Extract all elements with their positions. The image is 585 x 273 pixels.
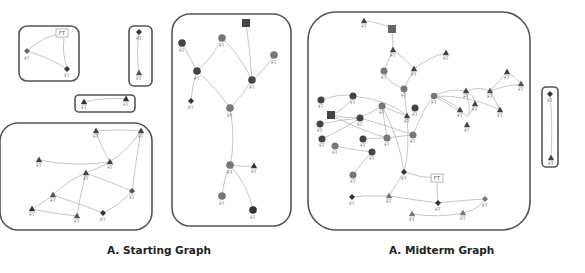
svg-text:FT: FT [390, 53, 396, 58]
svg-text:FT: FT [381, 75, 387, 80]
svg-text:FT: FT [401, 93, 407, 98]
svg-text:FT: FT [431, 100, 437, 105]
svg-text:FT: FT [349, 201, 355, 206]
svg-text:FT: FT [412, 112, 418, 117]
svg-text:FT: FT [227, 113, 233, 118]
svg-text:FT: FT [136, 36, 142, 41]
svg-text:FT: FT [410, 139, 416, 144]
svg-text:FT: FT [219, 43, 225, 48]
svg-text:FT: FT [24, 56, 30, 61]
svg-text:FT: FT [386, 199, 392, 204]
svg-text:FT: FT [401, 176, 407, 181]
svg-text:FT: FT [93, 134, 99, 139]
svg-text:FT: FT [404, 119, 410, 124]
svg-text:FT: FT [547, 98, 553, 103]
svg-text:FT: FT [74, 219, 80, 224]
starting-cluster-4: FT FT FT FT FT FT FT FT FT FT [0, 123, 152, 230]
caption-starting-graph: A. Starting Graph [107, 244, 211, 256]
svg-text:FT: FT [100, 217, 106, 222]
svg-text:FT: FT [81, 105, 87, 110]
svg-text:FT: FT [50, 198, 56, 203]
svg-text:FT: FT [136, 76, 142, 81]
svg-text:FT: FT [251, 169, 257, 174]
svg-text:FT: FT [435, 207, 441, 212]
svg-text:FT: FT [227, 170, 233, 175]
svg-text:FT: FT [36, 163, 42, 168]
svg-text:FT: FT [504, 75, 510, 80]
starting-cluster-2: FT FT [129, 26, 152, 86]
svg-text:FT: FT [463, 94, 469, 99]
svg-text:FT: FT [464, 128, 470, 133]
svg-text:FT: FT [384, 142, 390, 147]
svg-text:FT: FT [350, 179, 356, 184]
svg-text:FT: FT [457, 113, 463, 118]
svg-text:FT: FT [369, 156, 375, 161]
svg-text:FT: FT [250, 215, 256, 220]
svg-text:FT: FT [409, 217, 415, 222]
svg-text:FT: FT [107, 165, 113, 170]
svg-text:FT: FT [518, 87, 524, 92]
svg-text:FT: FT [482, 203, 488, 208]
svg-text:FT: FT [487, 94, 493, 99]
svg-text:FT: FT [59, 30, 66, 36]
svg-text:FT: FT [123, 102, 129, 107]
starting-cluster-3: FT FT [75, 95, 135, 112]
svg-text:FT: FT [361, 24, 367, 29]
starting-cluster-1: FT FT FT [19, 26, 79, 81]
svg-text:FT: FT [350, 100, 356, 105]
midterm-cluster-2: FT FT [542, 87, 558, 167]
svg-text:FT: FT [357, 122, 363, 127]
svg-text:FT: FT [317, 128, 323, 133]
svg-text:FT: FT [472, 107, 478, 112]
svg-text:FT: FT [411, 72, 417, 77]
svg-text:FT: FT [318, 104, 324, 109]
svg-text:FT: FT [249, 85, 255, 90]
svg-text:FT: FT [83, 176, 89, 181]
caption-midterm-graph: A. Midterm Graph [389, 244, 494, 256]
svg-text:FT: FT [64, 73, 70, 78]
svg-text:FT: FT [443, 56, 449, 61]
svg-text:FT: FT [497, 113, 503, 118]
svg-text:FT: FT [332, 150, 338, 155]
svg-text:FT: FT [219, 201, 225, 206]
svg-text:FT: FT [29, 212, 35, 217]
svg-text:FT: FT [460, 216, 466, 221]
svg-text:FT: FT [138, 134, 144, 139]
svg-text:FT: FT [434, 175, 441, 181]
starting-cluster-5: FT FT FT FT FT FT FT FT FT FT FT [172, 14, 291, 226]
svg-text:FT: FT [194, 76, 200, 81]
svg-text:FT: FT [179, 48, 185, 53]
svg-text:FT: FT [129, 195, 135, 200]
midterm-cluster-1: FT FT FT FT FT FT FT FT FT FT FT FT FT F… [308, 12, 530, 230]
svg-text:FT: FT [319, 143, 325, 148]
graph-canvas: FT FT FT FT FT FT FT [0, 0, 585, 273]
svg-text:FT: FT [548, 161, 554, 166]
svg-text:FT: FT [379, 110, 385, 115]
svg-text:FT: FT [271, 60, 277, 65]
svg-text:FT: FT [360, 143, 366, 148]
svg-text:FT: FT [188, 105, 194, 110]
